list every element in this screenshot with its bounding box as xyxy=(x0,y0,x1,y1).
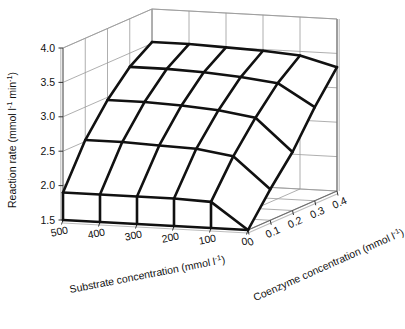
z-tick-label-0.1: 0.1 xyxy=(264,223,282,240)
x-tick-label-200: 200 xyxy=(160,229,180,244)
y-tick-label-3.5: 3.5 xyxy=(40,76,55,88)
y-tick-label-4.0: 4.0 xyxy=(40,42,55,54)
z-tick-label-0.2: 0.2 xyxy=(286,213,304,230)
y-tick-label-2.5: 2.5 xyxy=(40,145,55,157)
x-tick-label-100: 100 xyxy=(197,231,217,246)
z-tick-2 xyxy=(293,211,294,216)
y-tick-label-3.0: 3.0 xyxy=(40,110,55,122)
x-tick-label-300: 300 xyxy=(123,227,143,242)
x-axis-title: Substrate concentration (mmol l-1) xyxy=(68,252,226,295)
x-tick-label-400: 400 xyxy=(86,225,106,240)
z-tick-label-0.3: 0.3 xyxy=(308,204,326,221)
y-tick-label-1.5: 1.5 xyxy=(40,214,55,226)
y-axis-title: Reaction rate (mmol l-1 min-1) xyxy=(5,72,19,208)
surface-plot-canvas: 1.52.02.53.03.54.0500400300200100000.10.… xyxy=(0,0,405,329)
z-tick-3 xyxy=(315,201,316,206)
z-tick-1 xyxy=(270,220,271,225)
surface-plot-figure: 1.52.02.53.03.54.0500400300200100000.10.… xyxy=(0,0,405,329)
y-tick-label-2.0: 2.0 xyxy=(40,179,55,191)
z-tick-4 xyxy=(337,191,338,196)
z-tick-label-0.4: 0.4 xyxy=(330,194,348,211)
x-tick-label-500: 500 xyxy=(49,223,69,238)
